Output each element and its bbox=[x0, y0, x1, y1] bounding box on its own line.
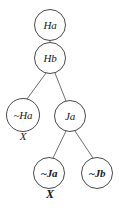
tree-node[interactable]: Ha bbox=[34, 9, 66, 41]
tree-node-label: Ha bbox=[43, 20, 56, 31]
tree-edge bbox=[55, 73, 66, 101]
tree-edge bbox=[53, 131, 66, 158]
tree-edge bbox=[27, 73, 46, 99]
tree-node[interactable]: ~Ha bbox=[6, 98, 40, 132]
tree-node-label: ~Ha bbox=[14, 110, 33, 121]
closure-mark: X bbox=[13, 131, 33, 142]
tree-node[interactable]: ~Jb bbox=[81, 157, 113, 189]
tree-node-label: ~Ja bbox=[41, 168, 58, 179]
tree-node-label: Hb bbox=[43, 53, 56, 64]
tableau-diagram: HaHb~HaJa~Ja~Jb XX bbox=[0, 0, 119, 210]
tree-node-label: ~Jb bbox=[89, 168, 106, 179]
tree-node-label: Ja bbox=[65, 111, 75, 122]
tree-edge bbox=[75, 131, 93, 158]
tree-node[interactable]: Hb bbox=[34, 42, 66, 74]
tree-node[interactable]: Ja bbox=[54, 100, 86, 132]
closure-mark: X bbox=[40, 188, 60, 200]
tree-node[interactable]: ~Ja bbox=[33, 157, 65, 189]
